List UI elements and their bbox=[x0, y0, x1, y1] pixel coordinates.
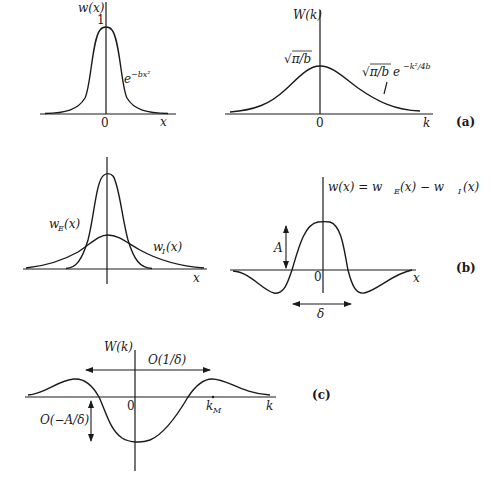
panel-label-c: (c) bbox=[312, 388, 331, 402]
peak-k-tick bbox=[212, 396, 214, 398]
panel-label-b: (b) bbox=[456, 261, 476, 275]
x-axis-label: x bbox=[193, 271, 200, 285]
x-axis-label: k bbox=[423, 116, 430, 130]
panel-a-left-plot: w(x) 1 0 x e −bx² bbox=[40, 1, 176, 130]
x-axis-label: x bbox=[160, 115, 167, 129]
peak-k-subscript: M bbox=[212, 406, 222, 415]
equation-subscript-i: I bbox=[457, 187, 462, 196]
width-label: δ bbox=[317, 307, 324, 321]
peak-value-label: 1 bbox=[97, 13, 105, 27]
equation-part3: (x) bbox=[463, 180, 479, 194]
amplitude-label: A bbox=[273, 241, 283, 255]
origin-label: 0 bbox=[101, 116, 109, 130]
curve-label-exponent: −k²/4b bbox=[403, 62, 431, 71]
origin-label: 0 bbox=[314, 270, 322, 284]
panel-label-a: (a) bbox=[456, 115, 475, 129]
excitatory-arg: (x) bbox=[64, 217, 80, 231]
diagram-canvas: w(x) 1 0 x e −bx² W(k) √π/b 0 k √π/b e −… bbox=[0, 0, 495, 490]
curve-label-base: √π/b e bbox=[362, 65, 400, 79]
inhibitory-arg: (x) bbox=[166, 240, 182, 254]
fourier-mexican-hat-curve bbox=[28, 379, 270, 442]
y-axis-label: W(k) bbox=[293, 8, 322, 22]
equation-part1: w(x) = w bbox=[328, 180, 383, 194]
span-label: O(1/δ) bbox=[148, 353, 186, 367]
panel-b-left-plot: w E (x) w I (x) x bbox=[23, 157, 207, 285]
panel-c-plot: W(k) O(1/δ) 0 k M k O(−A/δ) bbox=[25, 340, 276, 471]
origin-label: 0 bbox=[316, 116, 324, 130]
panel-a-right-plot: W(k) √π/b 0 k √π/b e −k²/4b bbox=[225, 8, 433, 130]
x-axis-label: x bbox=[413, 271, 420, 285]
equation-part2: (x) − w bbox=[400, 180, 445, 194]
panel-b-right-plot: w(x) = w E (x) − w I (x) A 0 x δ bbox=[230, 177, 479, 321]
curve-label-exponent: −bx² bbox=[131, 70, 151, 79]
origin-label: 0 bbox=[127, 399, 135, 413]
leader-line bbox=[384, 82, 387, 94]
x-axis-label: k bbox=[266, 399, 273, 413]
equation-subscript-e: E bbox=[393, 187, 400, 196]
excitatory-subscript: E bbox=[57, 224, 64, 233]
peak-value-label: √π/b bbox=[284, 52, 311, 66]
y-axis-label: W(k) bbox=[104, 340, 133, 354]
depth-label: O(−A/δ) bbox=[40, 413, 90, 427]
